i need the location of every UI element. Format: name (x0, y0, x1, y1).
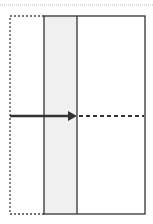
diagram-canvas (0, 0, 153, 224)
